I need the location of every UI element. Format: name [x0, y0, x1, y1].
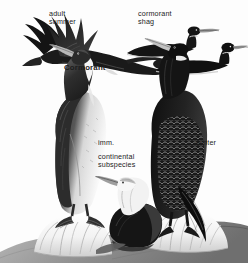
label-winter: winter	[196, 139, 216, 147]
label-immature: imm.	[98, 139, 114, 147]
bird-identification-plate: adult summer cormorant shag Cormorant im…	[0, 0, 248, 263]
label-adult-summer: adult summer	[49, 10, 76, 27]
plate-title: Cormorant	[64, 64, 106, 72]
label-continental-subspecies: continental subspecies	[98, 153, 135, 170]
label-cormorant-shag: cormorant shag	[138, 10, 172, 27]
cormorant-illustration	[0, 0, 248, 263]
